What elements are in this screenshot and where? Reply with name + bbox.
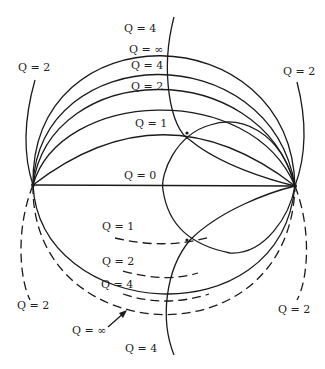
- q2-lower-dashed: [123, 271, 198, 278]
- q0-line: [33, 185, 295, 186]
- label-left-upper-q2: Q = 2: [18, 61, 50, 74]
- q-inf-arc: [33, 74, 295, 186]
- q4-lower-dashed-arc: [33, 185, 295, 315]
- label-q-inf-lower: Q = ∞: [72, 324, 106, 337]
- small-circle: [163, 122, 295, 253]
- label-q2-lower: Q = 2: [102, 255, 134, 268]
- label-q1: Q = 1: [135, 117, 167, 130]
- label-q0: Q = 0: [124, 169, 156, 182]
- label-q4: Q = 4: [131, 59, 163, 72]
- q4-lower-dashed: [123, 294, 209, 301]
- q2-right-lower-dashed-arc: [295, 186, 307, 300]
- label-q1-lower: Q = 1: [102, 220, 134, 233]
- upper-intersection-point: [185, 131, 188, 134]
- label-right-upper-q2: Q = 2: [283, 65, 315, 78]
- q2-right-upper-arc: [295, 82, 304, 186]
- label-q4-bottom: Q = 4: [125, 342, 157, 355]
- label-q-inf: Q = ∞: [129, 43, 163, 56]
- q-inf-lower-arc: [33, 185, 295, 294]
- left-focal-point: [31, 183, 35, 187]
- label-q2: Q = 2: [131, 80, 163, 93]
- label-right-lower-q2: Q = 2: [278, 303, 310, 316]
- lower-vertical-arc: [166, 186, 295, 355]
- q2-left-lower-dashed-arc: [21, 185, 33, 300]
- label-q4-outer: Q = 4: [124, 22, 156, 35]
- q-contour-diagram: Q = 4 Q = ∞ Q = 4 Q = 2 Q = 1 Q = 0 Q = …: [0, 0, 325, 369]
- label-q4-lower: Q = 4: [101, 278, 133, 291]
- label-left-lower-q2: Q = 2: [17, 299, 49, 312]
- right-focal-point: [293, 184, 297, 188]
- upper-vertical-arc: [167, 17, 295, 186]
- lower-intersection-point: [185, 238, 188, 241]
